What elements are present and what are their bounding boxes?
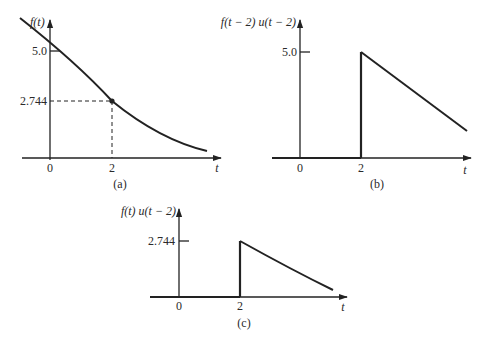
panel-c: f(t) u(t − 2) 2.744 0 2 t (c) — [121, 204, 347, 330]
ytick-label-2744: 2.744 — [148, 234, 175, 248]
curve-shifted — [361, 52, 467, 131]
ylabel-c: f(t) u(t − 2) — [121, 204, 176, 218]
xlabel-c: t — [341, 300, 345, 314]
xlabel-b: t — [463, 163, 467, 177]
caption-c: (c) — [237, 316, 250, 330]
caption-b: (b) — [370, 177, 384, 191]
xtick-label-2: 2 — [358, 161, 364, 175]
panel-a: f(t) 5.0 2.744 0 2 t (a) — [20, 15, 221, 191]
caption-a: (a) — [113, 177, 126, 191]
ylabel-b: f(t − 2) u(t − 2) — [221, 15, 296, 29]
ytick-label-5: 5.0 — [32, 44, 47, 58]
xtick-label-0: 0 — [176, 299, 182, 313]
curve-gated — [240, 241, 333, 290]
xtick-label-2: 2 — [109, 161, 115, 175]
ytick-label-5: 5.0 — [282, 45, 297, 59]
panel-b: f(t − 2) u(t − 2) 5.0 0 2 t (b) — [221, 15, 471, 191]
xtick-label-2: 2 — [237, 299, 243, 313]
point-marker — [109, 98, 114, 103]
ytick-label-2744: 2.744 — [20, 94, 47, 108]
xtick-label-0: 0 — [47, 161, 53, 175]
figure: f(t) 5.0 2.744 0 2 t (a) f(t − 2) u(t − … — [0, 0, 485, 343]
xtick-label-0: 0 — [297, 161, 303, 175]
ylabel-a: f(t) — [30, 15, 45, 29]
curve-f — [20, 18, 207, 151]
xlabel-a: t — [215, 161, 219, 175]
